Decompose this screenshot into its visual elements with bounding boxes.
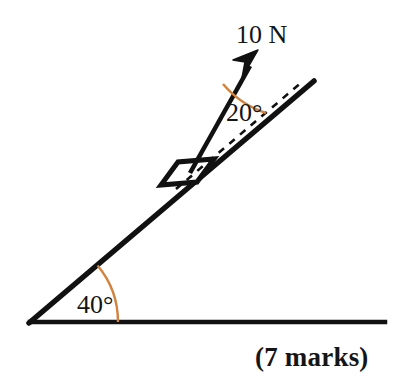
diagram-background bbox=[0, 0, 404, 383]
marks-label: (7 marks) bbox=[255, 342, 369, 372]
incline-angle-label: 40° bbox=[77, 290, 113, 319]
force-angle-label: 20° bbox=[226, 98, 262, 127]
force-diagram-svg: 10 N 20° 40° (7 marks) bbox=[0, 0, 404, 383]
force-magnitude-label: 10 N bbox=[236, 20, 288, 49]
figure-canvas: 10 N 20° 40° (7 marks) bbox=[0, 0, 404, 383]
